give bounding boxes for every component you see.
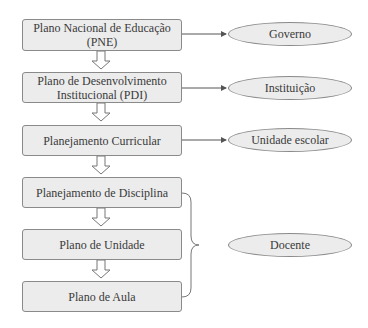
down-arrow-3 (92, 156, 110, 174)
down-arrow-2 (92, 103, 110, 121)
ellipse-instituicao: Instituição (228, 76, 352, 100)
box-planejamento-disciplina: Planejamento de Disciplina (22, 177, 182, 208)
ellipse-docente: Docente (228, 233, 352, 257)
box-plano-aula: Plano de Aula (22, 281, 182, 312)
box-plano-unidade: Plano de Unidade (22, 229, 182, 260)
down-arrow-5 (92, 260, 110, 278)
down-arrow-4 (92, 208, 110, 226)
box-planejamento-curricular: Planejamento Curricular (22, 125, 182, 156)
ellipse-unidade-escolar: Unidade escolar (228, 128, 352, 152)
down-arrow-1 (92, 51, 110, 69)
ellipse-governo: Governo (228, 22, 352, 46)
box-pne: Plano Nacional de Educação (PNE) (22, 19, 182, 51)
box-pdi: Plano de Desenvolvimento Institucional (… (22, 72, 182, 103)
grouping-brace (182, 193, 199, 297)
